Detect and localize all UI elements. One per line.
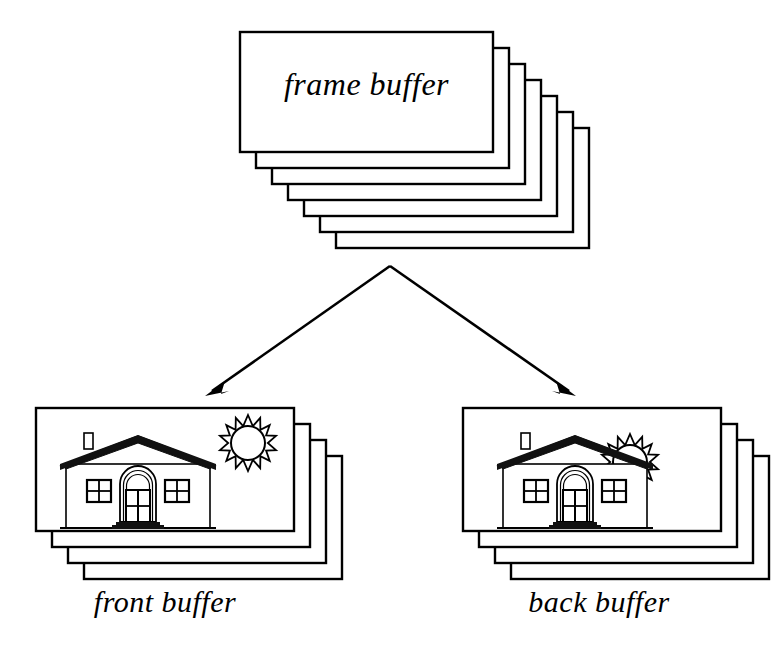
arrow-to-front-buffer <box>205 266 390 396</box>
arrow-to-back-buffer <box>390 266 576 396</box>
frame-buffer-label: frame buffer <box>240 66 493 103</box>
back-buffer-label: back buffer <box>470 585 728 619</box>
back-buffer-stack[interactable] <box>463 408 769 579</box>
front-buffer-stack[interactable] <box>36 408 342 579</box>
diagram-canvas: frame buffer front buffer back buffer <box>0 0 784 661</box>
frame-buffer-stack[interactable] <box>240 32 589 248</box>
front-buffer-label: front buffer <box>36 585 294 619</box>
